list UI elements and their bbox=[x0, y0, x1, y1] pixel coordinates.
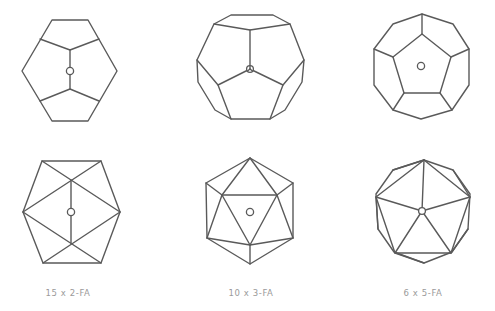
caption: 15 x 2-FA bbox=[45, 288, 90, 298]
panel-icosahedron-3fold: 10 x 3-FA bbox=[206, 158, 293, 298]
edge-f bbox=[277, 195, 293, 238]
diag-4 bbox=[43, 212, 120, 263]
left-radial-edge bbox=[218, 69, 250, 85]
axis-marker-icon bbox=[417, 62, 424, 69]
rim-2 bbox=[453, 170, 470, 197]
rim-4 bbox=[395, 253, 424, 263]
edge-e bbox=[207, 195, 222, 238]
edge-b bbox=[250, 158, 277, 195]
axis-marker-icon bbox=[66, 67, 73, 74]
rim-3 bbox=[451, 229, 468, 253]
spoke-right bbox=[451, 49, 469, 57]
spoke-5 bbox=[376, 197, 422, 211]
diag-2 bbox=[23, 161, 101, 212]
lower-inner-edges bbox=[40, 89, 99, 101]
caption: 6 x 5-FA bbox=[403, 288, 442, 298]
panel-dodecahedron-2fold bbox=[22, 20, 117, 121]
right-side-edges bbox=[270, 60, 304, 119]
spoke-4 bbox=[395, 211, 422, 253]
spoke-bottom-right bbox=[440, 93, 452, 110]
polyhedra-figure: 15 x 2-FA 10 x 3-FA 6 x 5-FA bbox=[0, 0, 495, 311]
edge-c bbox=[206, 183, 222, 195]
diag-3 bbox=[23, 212, 101, 263]
rim-1 bbox=[393, 160, 424, 170]
spoke-2 bbox=[422, 197, 470, 211]
spoke-1 bbox=[422, 160, 424, 211]
edge-d bbox=[277, 183, 293, 195]
axis-marker-icon bbox=[67, 208, 74, 215]
panel-icosahedron-5fold: 6 x 5-FA bbox=[376, 160, 470, 298]
caption: 10 x 3-FA bbox=[228, 288, 273, 298]
diag-1 bbox=[42, 161, 120, 212]
axis-marker-icon bbox=[419, 208, 426, 215]
panel-dodecahedron-3fold bbox=[197, 15, 304, 119]
upper-inner-edges bbox=[40, 39, 99, 50]
spoke-3 bbox=[422, 211, 451, 253]
edge-a bbox=[222, 158, 250, 195]
panel-dodecahedron-5fold bbox=[374, 14, 469, 119]
panel-icosahedron-2fold: 15 x 2-FA bbox=[23, 161, 120, 298]
spoke-left bbox=[374, 49, 393, 57]
axis-marker-icon bbox=[246, 208, 253, 215]
right-radial-edge bbox=[250, 69, 283, 85]
top-face-edge bbox=[214, 24, 290, 30]
spoke-bottom-left bbox=[393, 93, 404, 110]
center-triangle bbox=[222, 195, 277, 245]
